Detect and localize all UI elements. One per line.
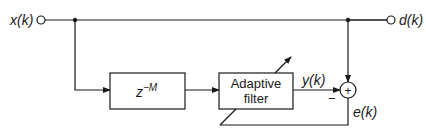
input-label: x(k)	[9, 12, 33, 28]
block-diagram: x(k) d(k) z−M Adaptive filter y(k) − + e…	[0, 0, 426, 132]
desired-label: d(k)	[399, 12, 423, 28]
adaptation-arrow	[275, 57, 291, 73]
branch-to-delay	[75, 20, 110, 90]
error-label: e(k)	[353, 104, 377, 120]
output-label: y(k)	[301, 72, 325, 88]
plus-sign: +	[344, 84, 351, 98]
input-terminal	[37, 16, 45, 24]
filter-label-line1: Adaptive	[231, 76, 282, 91]
desired-terminal	[387, 16, 395, 24]
minus-sign: −	[328, 91, 336, 106]
filter-label-line2: filter	[244, 91, 269, 106]
adaptation-input-slash	[220, 109, 236, 125]
